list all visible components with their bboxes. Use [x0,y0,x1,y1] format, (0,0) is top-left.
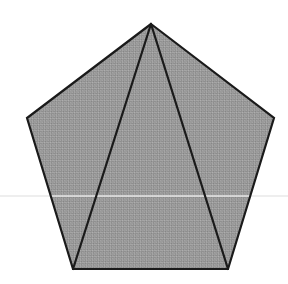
pentagon-figure-svg [0,0,288,284]
figure-canvas [0,0,288,284]
